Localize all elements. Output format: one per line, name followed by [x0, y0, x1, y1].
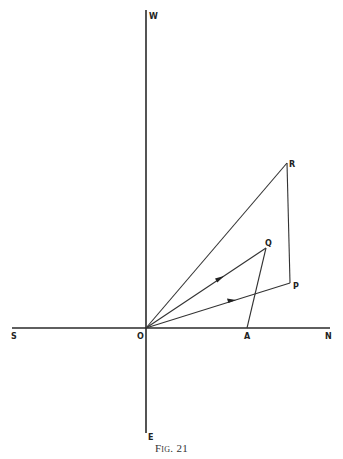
label-N: N	[325, 332, 332, 341]
figure-caption: Fig. 21	[0, 442, 343, 454]
label-A: A	[244, 332, 251, 341]
label-O: O	[137, 332, 144, 341]
segment-RP	[287, 163, 290, 283]
segment-AQ	[247, 248, 266, 328]
label-P: P	[293, 282, 299, 291]
segment-OQ	[146, 248, 266, 328]
label-E: E	[148, 433, 153, 442]
vector-diagram: W E S N O A Q P R	[0, 0, 343, 459]
label-S: S	[11, 332, 17, 341]
label-W: W	[149, 12, 158, 21]
segment-OP	[146, 283, 290, 328]
label-R: R	[289, 160, 295, 169]
label-Q: Q	[265, 239, 272, 248]
